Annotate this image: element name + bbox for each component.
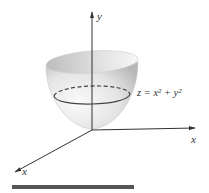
diagonal-axis-label: x	[22, 166, 27, 177]
divider-bar	[12, 185, 134, 189]
right-axis-label: x	[191, 134, 196, 145]
right-axis	[92, 128, 195, 130]
vertical-axis-label: y	[97, 11, 102, 22]
surface-equation-label: z = x² + y²	[137, 88, 181, 99]
